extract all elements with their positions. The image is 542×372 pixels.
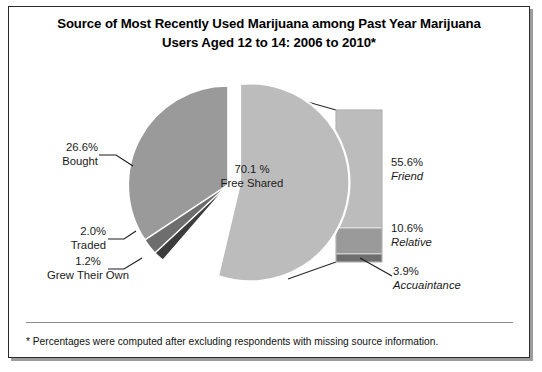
label-bought-pct: 26.6% bbox=[24, 141, 98, 155]
bar-segment-relative bbox=[336, 228, 382, 254]
label-free-shared-pct: 70.1 % bbox=[196, 163, 308, 177]
label-acquaintance-pct: 3.9% bbox=[393, 265, 461, 279]
label-friend-pct: 55.6% bbox=[391, 156, 423, 170]
label-traded: 2.0% Traded bbox=[32, 225, 106, 252]
label-grew-name: Grew Their Own bbox=[28, 269, 148, 283]
label-acquaintance: 3.9% Accuaintance bbox=[393, 265, 461, 292]
label-grew-pct: 1.2% bbox=[28, 255, 148, 269]
chart-figure: Source of Most Recently Used Marijuana a… bbox=[0, 0, 542, 372]
label-bought: 26.6% Bought bbox=[24, 141, 98, 168]
label-bought-name: Bought bbox=[24, 155, 98, 169]
label-relative-pct: 10.6% bbox=[391, 222, 432, 236]
bar-segment-acquaintance bbox=[336, 254, 382, 262]
label-acquaintance-name: Accuaintance bbox=[393, 279, 461, 293]
label-relative-name: Relative bbox=[391, 236, 432, 250]
label-free-shared: 70.1 % Free Shared bbox=[196, 163, 308, 190]
bought-leader-line bbox=[99, 155, 133, 166]
label-grew-their-own: 1.2% Grew Their Own bbox=[28, 255, 148, 282]
label-friend: 55.6% Friend bbox=[391, 156, 423, 183]
label-traded-pct: 2.0% bbox=[32, 225, 106, 239]
label-friend-name: Friend bbox=[391, 170, 423, 184]
label-traded-name: Traded bbox=[32, 239, 106, 253]
label-free-shared-name: Free Shared bbox=[196, 177, 308, 191]
label-relative: 10.6% Relative bbox=[391, 222, 432, 249]
traded-leader-line bbox=[108, 231, 136, 239]
